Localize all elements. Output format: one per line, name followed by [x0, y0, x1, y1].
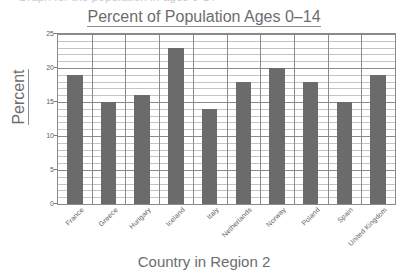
- x-tick-label: Italy: [205, 206, 219, 220]
- x-tick-label: Hungary: [128, 206, 152, 230]
- x-tick-label: Greece: [97, 206, 119, 228]
- x-tick-label: France: [64, 206, 85, 227]
- gridline-vertical: [328, 34, 329, 204]
- x-tick-label: Norway: [265, 206, 287, 228]
- x-tick-label: Spain: [336, 206, 354, 224]
- chart-title-text: Percent of Population Ages 0–14: [87, 8, 320, 27]
- bar: [370, 75, 386, 204]
- top-cropped-text: Graph for the population in ages 0-14: [18, 0, 216, 3]
- x-tick-label: United Kingdom: [347, 206, 388, 247]
- y-axis-title-text: Percent: [10, 69, 29, 124]
- y-tick-label: 20: [46, 64, 54, 71]
- y-axis-ticks: 0510152025: [39, 33, 54, 205]
- bar: [168, 48, 184, 204]
- x-tick-label: Iceland: [164, 206, 185, 227]
- bar: [67, 75, 83, 204]
- x-tick-label: Netherlands: [221, 206, 253, 238]
- gridline-vertical: [361, 34, 362, 204]
- bar: [303, 82, 319, 204]
- x-axis-title: Country in Region 2: [0, 253, 408, 270]
- top-cropped-text-sliver: Graph for the population in ages 0-14: [0, 0, 408, 7]
- plot-area: [57, 33, 396, 205]
- chart-title: Percent of Population Ages 0–14: [0, 8, 408, 26]
- y-tick-label: 10: [46, 132, 54, 139]
- gridline-vertical: [193, 34, 194, 204]
- bar: [337, 102, 353, 204]
- bar: [101, 102, 117, 204]
- gridline-vertical: [227, 34, 228, 204]
- plot-wrapper: [57, 33, 396, 205]
- bar: [134, 95, 150, 204]
- gridline-vertical: [159, 34, 160, 204]
- y-tick-label: 15: [46, 98, 54, 105]
- gridline-vertical: [260, 34, 261, 204]
- bar: [236, 82, 252, 204]
- y-tick-label: 25: [46, 30, 54, 37]
- y-axis-title: Percent: [10, 52, 28, 142]
- gridline-vertical: [294, 34, 295, 204]
- gridline-vertical: [92, 34, 93, 204]
- bar: [202, 109, 218, 204]
- gridline-vertical: [125, 34, 126, 204]
- bar: [269, 68, 285, 204]
- gridline-major-horizontal: [58, 204, 395, 205]
- x-tick-label: Poland: [300, 206, 321, 227]
